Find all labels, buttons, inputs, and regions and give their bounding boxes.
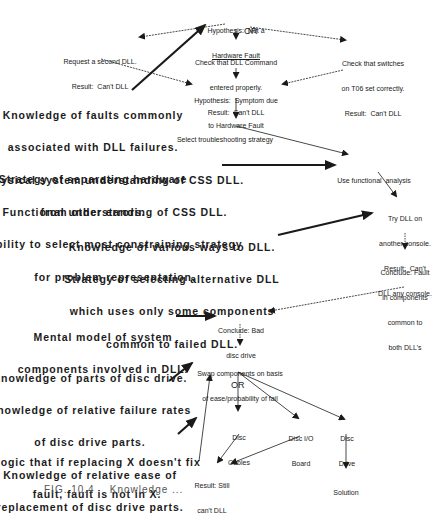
- knowledge-line: Knowledge of parts of disc drive.: [0, 373, 191, 384]
- node-line: Board: [289, 460, 314, 468]
- node-line: Disc: [228, 434, 250, 442]
- node-line: Cables: [228, 459, 250, 467]
- knowledge-line: associated with DLL failures.: [0, 142, 187, 153]
- node-line: Disc I/O: [289, 435, 314, 443]
- node-line: Disc: [339, 435, 355, 443]
- node-check-switches: Check that switches on T06 set correctly…: [342, 43, 405, 135]
- bold-arrow-k3: [278, 213, 372, 235]
- node-line: Check that DLL Command: [195, 59, 277, 67]
- node-line: Drive: [339, 460, 355, 468]
- knowledge-line: Strategy of selecting alternative DLL: [64, 274, 279, 285]
- node-line: Solution: [333, 489, 358, 497]
- node-fault-common: Conclude: Fault in components common to …: [380, 252, 429, 370]
- node-line: both DLL's: [380, 344, 429, 352]
- node-line: on T06 set correctly.: [342, 85, 405, 93]
- node-solution: Solution: [333, 472, 358, 514]
- knowledge-line: Knowledge of relative failure rates: [0, 405, 191, 416]
- node-line: Use functional analysis: [337, 177, 411, 185]
- node-line: another console.: [378, 240, 432, 248]
- or-label-bottom: OR: [231, 380, 245, 390]
- knowledge-line: Knowledge of faults commonly: [0, 110, 187, 121]
- node-line: Try DLL on: [378, 215, 432, 223]
- node-line: Result: Can't DLL: [342, 110, 405, 118]
- knowledge-line: Mental model of system: [18, 332, 189, 343]
- node-disc-cables: Disc Cables: [228, 417, 250, 484]
- node-line: of ease/probability of fail: [197, 395, 283, 403]
- node-line: Conclude: Fault: [380, 269, 429, 277]
- arrow-switches-to-hyphw: [283, 70, 343, 84]
- knowledge-line: Logic that if replacing X doesn't fix: [0, 457, 201, 468]
- knowledge-line: Physical system understanding of CSS DLL…: [0, 175, 244, 186]
- or-label-top: OR: [244, 26, 258, 36]
- node-functional-analysis: Use functional analysis: [337, 160, 411, 202]
- knowledge-line: Functional understanding of CSS DLL.: [0, 207, 244, 218]
- knowledge-replacement-logic: Logic that if replacing X doesn't fix fa…: [0, 435, 201, 517]
- node-line: Request a second DLL.: [63, 58, 136, 66]
- node-disc-io-board: Disc I/O Board: [289, 418, 314, 485]
- node-line: Check that switches: [342, 60, 405, 68]
- figure-caption: FIG. 10.4 Knowledge ...: [44, 484, 183, 495]
- node-line: common to: [380, 319, 429, 327]
- node-line: Hypothesis: Symptom due: [194, 97, 278, 105]
- node-line: in components: [380, 294, 429, 302]
- knowledge-line: Knowledge of various ways to DLL.: [64, 242, 279, 253]
- node-line: Select troubleshooting strategy: [177, 136, 273, 144]
